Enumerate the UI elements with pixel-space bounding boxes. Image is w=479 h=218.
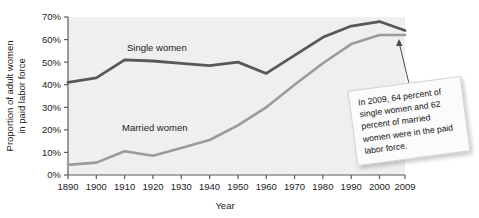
y-axis-tick-label: 60%	[42, 34, 62, 45]
series-label-married-women: Married women	[122, 122, 187, 133]
x-axis-tick-label: 1980	[312, 181, 333, 192]
y-axis-ticks: 0%10%20%30%40%50%60%70%	[42, 11, 68, 180]
y-axis-tick-label: 20%	[42, 124, 62, 135]
y-axis-tick-label: 50%	[42, 57, 62, 68]
x-axis-tick-label: 1970	[284, 181, 305, 192]
x-axis-title: Year	[215, 200, 234, 211]
y-axis-tick-label: 0%	[47, 169, 61, 180]
y-axis-tick-label: 30%	[42, 102, 62, 113]
x-axis-tick-label: 1900	[86, 181, 107, 192]
y-axis-tick-label: 40%	[42, 79, 62, 90]
x-axis-tick-label: 1950	[227, 181, 248, 192]
x-axis-tick-label: 1890	[57, 181, 78, 192]
x-axis-tick-label: 1920	[142, 181, 163, 192]
y-axis-tick-label: 70%	[42, 11, 62, 22]
x-axis-tick-label: 2000	[369, 181, 390, 192]
chart-figure: 0%10%20%30%40%50%60%70% 1890190019101920…	[0, 0, 479, 218]
annotation-callout-2009: In 2009, 64 percent of single women and …	[348, 76, 471, 166]
x-axis-tick-label: 1990	[341, 181, 362, 192]
x-axis-tick-label: 1960	[256, 181, 277, 192]
x-axis-tick-label: 1940	[199, 181, 220, 192]
y-axis-title: Proportion of adult women in paid labor …	[4, 41, 27, 152]
x-axis-tick-label: 1910	[114, 181, 135, 192]
x-axis-tick-label: 2009	[394, 181, 415, 192]
y-axis-title-line-2: in paid labor force	[16, 58, 27, 134]
series-label-single-women: Single women	[127, 42, 187, 53]
y-axis-tick-label: 10%	[42, 147, 62, 158]
x-axis-ticks: 1890190019101920193019401950196019701980…	[57, 175, 415, 192]
y-axis-title-line-1: Proportion of adult women	[4, 41, 15, 152]
x-axis-tick-label: 1930	[171, 181, 192, 192]
